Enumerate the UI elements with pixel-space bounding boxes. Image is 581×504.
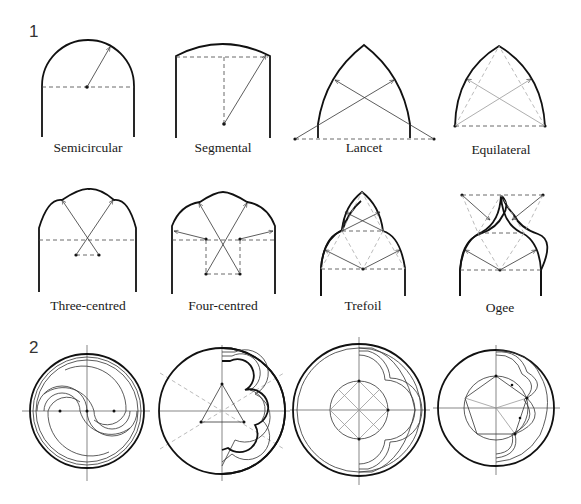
label-trefoil: Trefoil [303,298,423,314]
arch-equilateral [453,46,546,128]
label-ogee: Ogee [440,300,560,316]
label-segmental: Segmental [163,140,283,156]
label-three-centred: Three-centred [28,298,148,314]
tracery-trefoil-circle [159,345,290,481]
arch-trefoil [321,192,405,296]
arch-four-centred [172,192,275,294]
arch-semicircular [42,40,134,137]
arch-segmental [176,44,270,138]
tracery-mouchettes [22,345,150,481]
arch-three-centred [39,189,136,292]
label-semicircular: Semicircular [28,140,148,156]
arch-ogee [460,193,547,296]
section-number-2: 2 [29,338,38,358]
label-four-centred: Four-centred [163,298,283,314]
tracery-quatrefoil-circle [290,337,430,485]
tracery-cinquefoil-circle [433,345,560,475]
arch-lancet [293,45,435,141]
section-number-1: 1 [29,22,38,42]
label-equilateral: Equilateral [441,142,561,158]
label-lancet: Lancet [304,140,424,156]
